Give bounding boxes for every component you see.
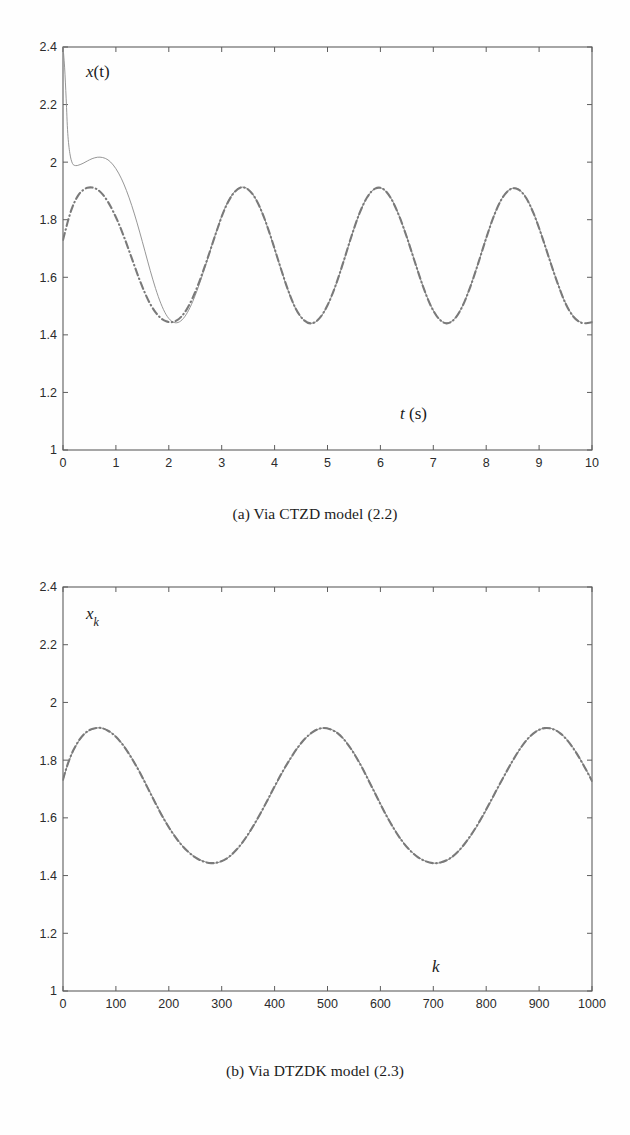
y-tick-label: 1.2 [40, 386, 57, 400]
series-dashdot-trajectory [63, 728, 592, 863]
plot-a-ylabel: x(t) [86, 62, 110, 82]
figure-panel-b: 0100200300400500600700800900100011.21.41… [0, 545, 630, 1135]
series-group [63, 47, 592, 323]
plot-a-xlabel-unit: (s) [409, 404, 427, 423]
caption-panel-a: (a) Via CTZD model (2.2) [0, 505, 630, 523]
series-group [63, 728, 592, 864]
y-tick-label: 1.2 [40, 927, 57, 941]
y-tick-label: 2.4 [40, 40, 57, 54]
caption-panel-b: (b) Via DTZDK model (2.3) [0, 1062, 630, 1080]
plot-b-ylabel-subscript: k [94, 615, 99, 629]
y-tick-label: 1.8 [40, 213, 57, 227]
x-tick-label: 200 [158, 997, 179, 1011]
plot-b-xlabel-sym: k [432, 957, 440, 976]
x-tick-label: 300 [211, 997, 232, 1011]
x-tick-label: 900 [529, 997, 550, 1011]
series-dashdot-trajectory [63, 187, 592, 323]
x-tick-label: 7 [430, 456, 437, 470]
x-tick-label: 1 [112, 456, 119, 470]
x-tick-label: 600 [370, 997, 391, 1011]
plot-box [63, 47, 592, 450]
x-tick-label: 500 [317, 997, 338, 1011]
plot-a-ylabel-arg: (t) [94, 62, 110, 81]
y-tick-label: 2.2 [40, 98, 57, 112]
figure-page: 01234567891011.21.41.61.822.22.4 x(t) t … [0, 0, 630, 1135]
y-tick-label: 2 [50, 696, 57, 710]
x-tick-label: 3 [218, 456, 225, 470]
x-tick-label: 0 [60, 997, 67, 1011]
plot-box [63, 587, 592, 991]
y-tick-label: 1 [50, 443, 57, 457]
y-tick-label: 1.6 [40, 811, 57, 825]
x-tick-label: 400 [264, 997, 285, 1011]
x-tick-label: 8 [483, 456, 490, 470]
x-tick-label: 1000 [578, 997, 606, 1011]
y-tick-label: 2.2 [40, 638, 57, 652]
x-tick-label: 800 [476, 997, 497, 1011]
y-tick-label: 1.4 [40, 328, 57, 342]
plot-b-xlabel: k [432, 957, 440, 977]
y-tick-label: 2 [50, 156, 57, 170]
y-tick-label: 2.4 [40, 580, 57, 594]
x-tick-label: 0 [60, 456, 67, 470]
axes-group: 0100200300400500600700800900100011.21.41… [40, 580, 606, 1011]
x-tick-label: 2 [165, 456, 172, 470]
y-tick-label: 1.6 [40, 271, 57, 285]
figure-panel-a: 01234567891011.21.41.61.822.22.4 x(t) t … [0, 0, 630, 545]
x-tick-label: 4 [271, 456, 278, 470]
y-tick-label: 1.8 [40, 754, 57, 768]
plot-a-xlabel-sym: t [400, 404, 405, 423]
x-tick-label: 5 [324, 456, 331, 470]
plot-b-ylabel: xk [86, 604, 99, 627]
series-solid-trajectory [63, 728, 592, 863]
x-tick-label: 100 [105, 997, 126, 1011]
x-tick-label: 6 [377, 456, 384, 470]
x-tick-label: 700 [423, 997, 444, 1011]
plot-a-wrapper: 01234567891011.21.41.61.822.22.4 x(t) t … [0, 0, 630, 500]
y-tick-label: 1.4 [40, 869, 57, 883]
x-tick-label: 9 [536, 456, 543, 470]
y-tick-label: 1 [50, 984, 57, 998]
x-tick-label: 10 [585, 456, 599, 470]
plot-a-xlabel: t (s) [400, 404, 427, 424]
axes-group: 01234567891011.21.41.61.822.22.4 [40, 40, 599, 470]
plot-a-ylabel-sym: x [86, 62, 94, 81]
plot-b-ylabel-sym: x [86, 604, 94, 623]
